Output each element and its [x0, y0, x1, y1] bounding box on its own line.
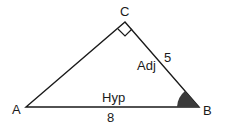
right-angle-marker: [118, 29, 132, 36]
vertex-c-label: C: [120, 4, 129, 19]
side-bc-length: 5: [164, 50, 171, 65]
vertex-a-label: A: [12, 102, 21, 117]
side-bc-name: Adj: [137, 58, 156, 73]
vertex-b-label: B: [203, 103, 212, 118]
side-ab-name: Hyp: [102, 90, 125, 105]
side-ab-length: 8: [107, 110, 114, 125]
triangle-diagram: C A B 5 Adj Hyp 8: [0, 0, 226, 134]
